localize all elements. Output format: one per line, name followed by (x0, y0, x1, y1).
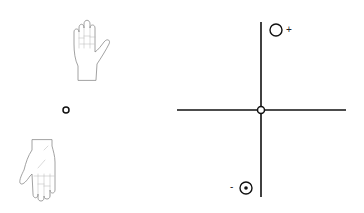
positive-label: + (286, 24, 292, 35)
origin-marker-icon (258, 107, 265, 114)
lower-hand-icon (20, 140, 55, 201)
negative-label: - (230, 181, 233, 192)
positive-circle-icon (270, 24, 282, 36)
diagram-canvas: + - (0, 0, 364, 213)
upper-hand-icon (74, 20, 110, 80)
negative-circle-dot (244, 186, 248, 190)
center-marker-icon (63, 107, 69, 113)
